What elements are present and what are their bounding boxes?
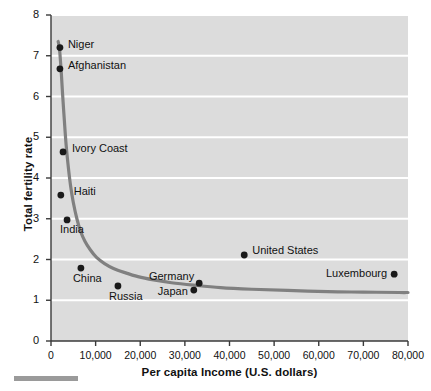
y-tick-label: 0 xyxy=(17,335,39,346)
data-point-label: Russia xyxy=(109,291,143,302)
y-axis-title: Total fertility rate xyxy=(22,94,34,274)
data-point-label: Germany xyxy=(149,271,194,282)
y-tick-label: 1 xyxy=(17,294,39,305)
x-tick-label: 60,000 xyxy=(303,350,335,361)
y-tick-label: 7 xyxy=(17,50,39,61)
x-tick-label: 50,000 xyxy=(258,350,290,361)
data-point xyxy=(57,192,64,199)
data-point-label: China xyxy=(73,273,102,284)
data-point xyxy=(78,265,85,272)
data-point-label: Japan xyxy=(158,286,188,297)
footer-accent-bar xyxy=(14,376,78,381)
x-axis-title: Per capita Income (U.S. dollars) xyxy=(51,366,408,378)
data-point xyxy=(57,65,64,72)
fertility-income-scatter-chart: Total fertility rate Per capita Income (… xyxy=(0,0,431,391)
data-point xyxy=(391,271,398,278)
data-point xyxy=(60,149,67,156)
y-tick-label: 6 xyxy=(17,91,39,102)
data-point-label: Afghanistan xyxy=(68,60,126,71)
x-tick-label: 40,000 xyxy=(213,350,245,361)
chart-plot-area xyxy=(0,0,431,391)
x-tick-label: 30,000 xyxy=(169,350,201,361)
data-point xyxy=(190,287,197,294)
y-tick-label: 4 xyxy=(17,172,39,183)
data-point xyxy=(196,280,203,287)
y-tick-label: 5 xyxy=(17,131,39,142)
data-point xyxy=(241,252,248,259)
data-point-label: Niger xyxy=(68,39,94,50)
x-tick-label: 0 xyxy=(48,350,54,361)
y-tick-label: 2 xyxy=(17,254,39,265)
x-tick-label: 20,000 xyxy=(124,350,156,361)
data-point-label: India xyxy=(60,224,84,235)
data-point-label: Ivory Coast xyxy=(72,143,128,154)
x-tick-label: 80,000 xyxy=(392,350,424,361)
data-point xyxy=(115,283,122,290)
x-tick-label: 10,000 xyxy=(80,350,112,361)
data-point-label: United States xyxy=(252,245,318,256)
data-point-label: Luxembourg xyxy=(326,268,387,279)
data-point-label: Haiti xyxy=(74,186,96,197)
x-tick-label: 70,000 xyxy=(347,350,379,361)
y-tick-label: 3 xyxy=(17,213,39,224)
data-point xyxy=(57,44,64,51)
y-tick-label: 8 xyxy=(17,9,39,20)
